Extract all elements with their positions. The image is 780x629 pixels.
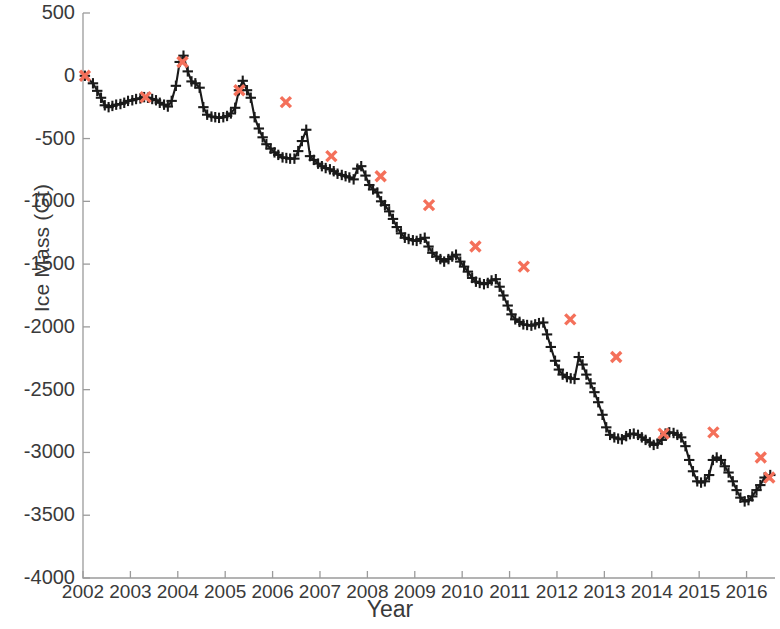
y-tick-label: -3000 [3,441,75,461]
plot-area [0,0,780,629]
y-tick-label: -500 [3,128,75,148]
y-tick-label: -1000 [3,190,75,210]
y-tick-label: 0 [3,65,75,85]
y-tick-label: -3500 [3,504,75,524]
y-tick-label: -1500 [3,253,75,273]
y-tick-label: -2500 [3,379,75,399]
y-tick-label: 500 [3,2,75,22]
axis-spines [83,13,775,578]
annual-maximum-markers [80,57,774,483]
x-tick-label: 2016 [717,582,777,601]
chart-figure: Ice Mass (Gt) Year 5000-500-1000-1500-20… [0,0,780,629]
y-tick-label: -2000 [3,316,75,336]
data-point-markers [80,50,776,506]
